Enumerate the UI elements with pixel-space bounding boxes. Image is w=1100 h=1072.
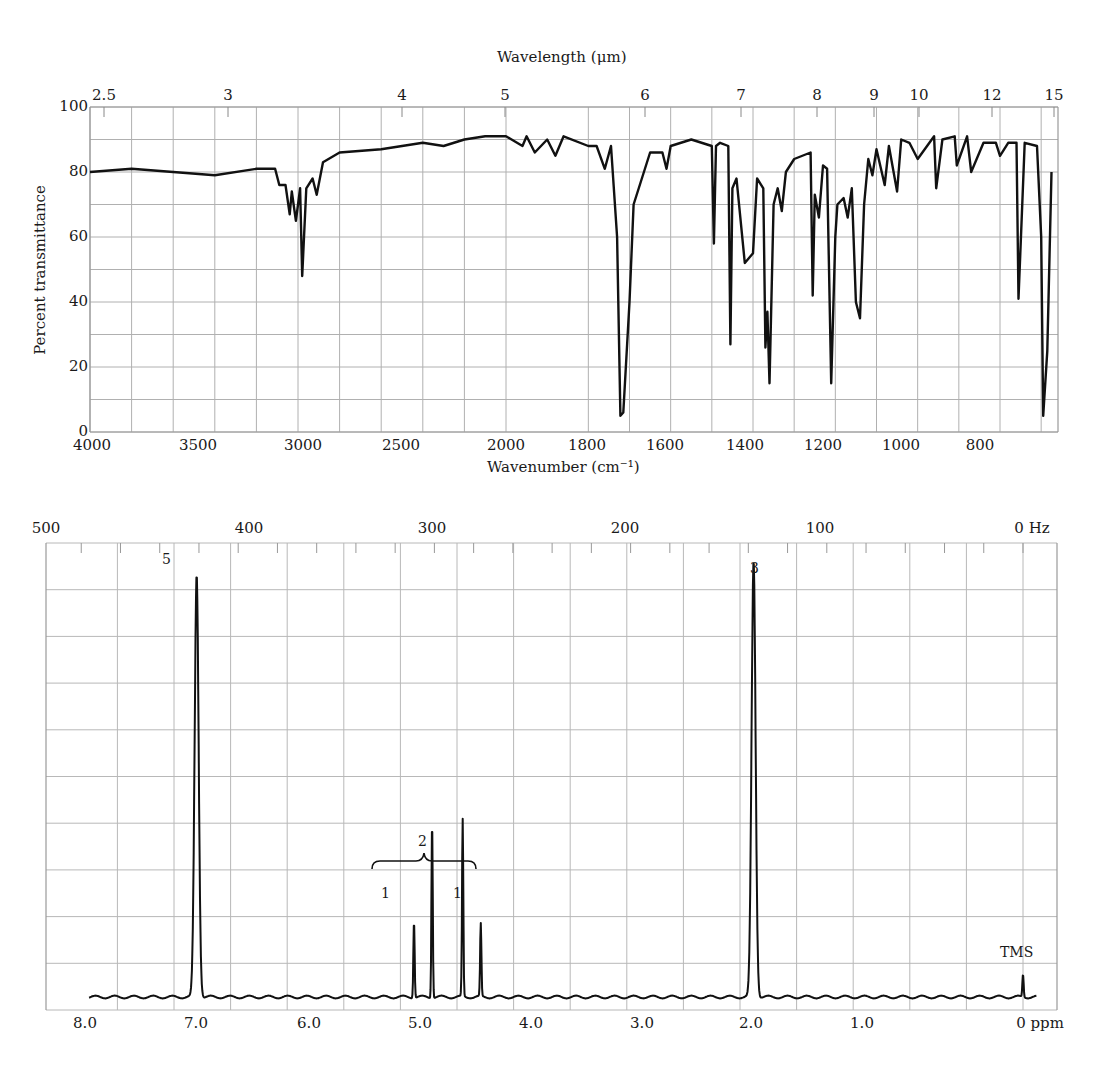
- nmr-hz-tick-4: 100: [806, 519, 835, 537]
- nmr-ppm-tick-6: 2.0: [739, 1014, 763, 1032]
- brace-label-2: 2: [418, 833, 427, 849]
- tms-label: TMS: [1000, 944, 1033, 960]
- nmr-hz-tick-2: 300: [418, 519, 447, 537]
- peak-label-3: 3: [750, 560, 759, 576]
- nmr-ppm-tick-7: 1.0: [850, 1014, 874, 1032]
- nmr-ppm-tick-3: 5.0: [408, 1014, 432, 1032]
- peak-label-5: 5: [162, 551, 171, 567]
- chart-canvas: [0, 0, 1100, 1072]
- nmr-hz-tick-1: 400: [235, 519, 264, 537]
- nmr-ppm-tick-4: 4.0: [519, 1014, 543, 1032]
- nmr-ppm-tick-2: 6.0: [297, 1014, 321, 1032]
- nmr-ppm-tick-5: 3.0: [630, 1014, 654, 1032]
- ir-spectrum-line: [90, 136, 1052, 416]
- nmr-hz-tick-3: 200: [611, 519, 640, 537]
- peak-label-1-right: 1: [453, 885, 462, 901]
- integration-brace: [372, 853, 476, 869]
- nmr-ppm-tick-1: 7.0: [184, 1014, 208, 1032]
- nmr-hz-tick-5: 0 Hz: [1014, 519, 1049, 537]
- nmr-hz-tick-0: 500: [32, 519, 61, 537]
- peak-label-1-left: 1: [381, 885, 390, 901]
- nmr-ppm-tick-8: 0 ppm: [1016, 1014, 1064, 1032]
- ir-grid: [90, 107, 1058, 432]
- nmr-spectrum-line: [89, 564, 1036, 999]
- nmr-ppm-tick-0: 8.0: [73, 1014, 97, 1032]
